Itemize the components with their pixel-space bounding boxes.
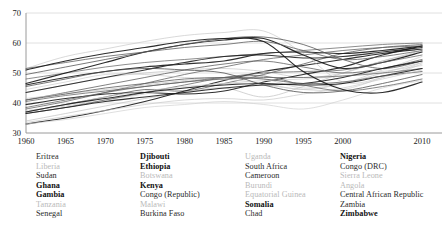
y-tick-label-50: 50 xyxy=(13,68,22,78)
legend-column-3: UgandaSouth AfricaCameroonBurundiEquator… xyxy=(245,152,340,226)
x-tick-label-1960: 1960 xyxy=(18,136,35,146)
y-axis-tick-labels: 3040506070 xyxy=(13,8,22,138)
legend-item-equatorial-guinea[interactable]: Equatorial Guinea xyxy=(245,190,340,200)
legend-item-nigeria[interactable]: Nigeria xyxy=(340,152,424,162)
legend-item-botswana[interactable]: Botswana xyxy=(140,171,245,181)
legend-column-1: EritreaLiberiaSudanGhanaGambiaTanzaniaSe… xyxy=(36,152,140,226)
legend-item-ghana[interactable]: Ghana xyxy=(36,181,140,191)
legend-item-sierra-leone[interactable]: Sierra Leone xyxy=(340,171,424,181)
y-tick-label-60: 60 xyxy=(13,38,22,48)
legend-item-kenya[interactable]: Kenya xyxy=(140,181,245,191)
legend-item-tanzania[interactable]: Tanzania xyxy=(36,200,140,210)
legend-item-zimbabwe[interactable]: Zimbabwe xyxy=(340,209,424,219)
series-lines-group xyxy=(26,30,422,124)
x-tick-label-1995: 1995 xyxy=(295,136,312,146)
legend-item-congo-republic[interactable]: Congo (Republic) xyxy=(140,190,245,200)
legend-item-congo-drc[interactable]: Congo (DRC) xyxy=(340,162,424,172)
legend-item-zambia[interactable]: Zambia xyxy=(340,200,424,210)
legend-item-sudan[interactable]: Sudan xyxy=(36,171,140,181)
x-tick-label-1975: 1975 xyxy=(136,136,153,146)
series-line-gambia xyxy=(26,49,422,124)
x-tick-label-1980: 1980 xyxy=(176,136,193,146)
x-tick-label-2010: 2010 xyxy=(414,136,431,146)
x-tick-label-1990: 1990 xyxy=(255,136,272,146)
legend-item-liberia[interactable]: Liberia xyxy=(36,162,140,172)
country-legend: EritreaLiberiaSudanGhanaGambiaTanzaniaSe… xyxy=(0,152,442,226)
chart-plot-area: 3040506070 19601965197019751980198519901… xyxy=(0,0,442,150)
legend-item-chad[interactable]: Chad xyxy=(245,209,340,219)
legend-item-cameroon[interactable]: Cameroon xyxy=(245,171,340,181)
y-tick-label-70: 70 xyxy=(13,8,22,18)
legend-item-burkina-faso[interactable]: Burkina Faso xyxy=(140,209,245,219)
legend-item-senegal[interactable]: Senegal xyxy=(36,209,140,219)
legend-item-gambia[interactable]: Gambia xyxy=(36,190,140,200)
legend-column-2: DjiboutiEthiopiaBotswanaKenyaCongo (Repu… xyxy=(140,152,245,226)
x-tick-label-2000: 2000 xyxy=(334,136,351,146)
life-expectancy-figure: 3040506070 19601965197019751980198519901… xyxy=(0,0,442,228)
x-tick-label-1985: 1985 xyxy=(216,136,233,146)
legend-item-angola[interactable]: Angola xyxy=(340,181,424,191)
legend-item-somalia[interactable]: Somalia xyxy=(245,200,340,210)
legend-column-4: NigeriaCongo (DRC)Sierra LeoneAngolaCent… xyxy=(340,152,424,226)
legend-item-south-africa[interactable]: South Africa xyxy=(245,162,340,172)
x-tick-label-1965: 1965 xyxy=(57,136,74,146)
legend-item-eritrea[interactable]: Eritrea xyxy=(36,152,140,162)
legend-item-djibouti[interactable]: Djibouti xyxy=(140,152,245,162)
legend-item-burundi[interactable]: Burundi xyxy=(245,181,340,191)
legend-item-central-african-republic[interactable]: Central African Republic xyxy=(340,190,424,200)
series-line-liberia xyxy=(26,52,422,121)
legend-item-ethiopia[interactable]: Ethiopia xyxy=(140,162,245,172)
y-tick-label-40: 40 xyxy=(13,98,22,108)
x-axis-tick-labels: 1960196519701975198019851990199520002010 xyxy=(18,136,431,146)
line-chart-svg: 3040506070 19601965197019751980198519901… xyxy=(0,0,442,150)
series-line-sierra-leone xyxy=(26,81,422,125)
x-tick-label-1970: 1970 xyxy=(97,136,114,146)
legend-item-malawi[interactable]: Malawi xyxy=(140,200,245,210)
legend-item-uganda[interactable]: Uganda xyxy=(245,152,340,162)
